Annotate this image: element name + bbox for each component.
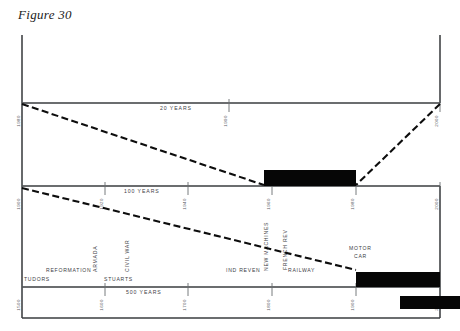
tick-label-1700-bot: 1700 xyxy=(182,299,187,311)
era-label-railway: RAILWAY xyxy=(288,267,315,273)
timeline-diagram: 1980 1990 2000 20 YEARS 1900 1920 1940 1… xyxy=(0,0,460,331)
tick-label-1900-mid: 1900 xyxy=(16,198,21,210)
tier-100-years: 1900 1920 1940 1960 1980 2000 100 YEARS xyxy=(16,170,440,210)
tick-label-1500-bot: 1500 xyxy=(16,299,21,311)
tick-label-1980-top: 1980 xyxy=(16,115,21,127)
tick-label-1600-bot: 1600 xyxy=(99,299,104,311)
tick-label-1900-bot: 1900 xyxy=(350,299,355,311)
era-label-tudors: TUDORS xyxy=(24,276,50,282)
overflow-bar xyxy=(400,296,460,309)
highlight-bar-bot xyxy=(356,272,440,287)
era-label-stuarts: STUARTS xyxy=(104,276,133,282)
tier-500-years: 1500 1600 1700 1800 1900 2000 500 YEARS … xyxy=(16,222,440,311)
era-label-french-revolution: FRENCH REV xyxy=(282,229,288,270)
connector-right-upper xyxy=(356,104,440,185)
tier-20-years: 1980 1990 2000 20 YEARS xyxy=(16,99,440,127)
era-label-armada: ARMADA xyxy=(92,246,98,272)
era-label-new-machines: NEW MACHINES xyxy=(263,222,269,271)
figure-canvas: Figure 30 1980 1990 2000 20 YEARS xyxy=(0,0,460,331)
span-label-500-years: 500 YEARS xyxy=(126,289,162,295)
era-label-car: CAR xyxy=(354,253,367,259)
tick-label-2000-mid: 2000 xyxy=(434,198,439,210)
tick-label-1980-mid: 1980 xyxy=(350,198,355,210)
connector-group xyxy=(22,104,440,270)
tick-label-1940-mid: 1940 xyxy=(182,198,187,210)
tick-label-1800-bot: 1800 xyxy=(266,299,271,311)
tick-label-1960-mid: 1960 xyxy=(266,198,271,210)
era-label-reformation: REFORMATION xyxy=(46,267,92,273)
span-label-20-years: 20 YEARS xyxy=(160,105,192,111)
span-label-100-years: 100 YEARS xyxy=(124,188,160,194)
connector-left-lower xyxy=(22,188,356,270)
era-label-ind-revolution: IND REVEN xyxy=(226,267,261,273)
tick-label-1990-top: 1990 xyxy=(223,115,228,127)
era-label-civil-war: CIVIL WAR xyxy=(124,240,130,272)
era-label-motor: MOTOR xyxy=(349,245,372,251)
highlight-bar-mid xyxy=(264,170,356,186)
tick-label-2000-top: 2000 xyxy=(434,115,439,127)
